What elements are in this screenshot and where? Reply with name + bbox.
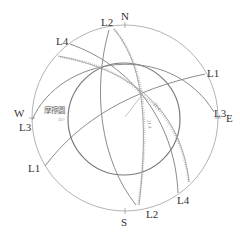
stereonet-diagram: 31.4 31.4 N S W E L2 L4 L1 L3 L3 L1 L4 L… [0, 0, 240, 236]
L1-label-left: L1 [28, 162, 40, 174]
L3-label-left: L3 [19, 121, 32, 133]
L1-label-right: L1 [207, 67, 219, 79]
hatch-band-top [114, 29, 142, 95]
great-circle-L4 [70, 44, 178, 193]
L3-label-right: L3 [214, 107, 227, 119]
north-label: N [121, 10, 129, 22]
great-circle-L2-b [114, 29, 143, 205]
east-label: E [226, 112, 233, 124]
south-label: S [121, 216, 127, 228]
L4-label-bottom: L4 [177, 194, 190, 206]
intersection-label-1: 31.4 [146, 119, 153, 129]
friction-angle-label: 35° [58, 117, 65, 122]
L2-label-top: L2 [101, 16, 113, 28]
friction-circle-label: 摩擦圆 [44, 105, 65, 115]
L4-label-top: L4 [56, 35, 69, 47]
west-label: W [14, 107, 25, 119]
L2-label-bottom: L2 [146, 208, 158, 220]
radial-line [125, 95, 142, 117]
